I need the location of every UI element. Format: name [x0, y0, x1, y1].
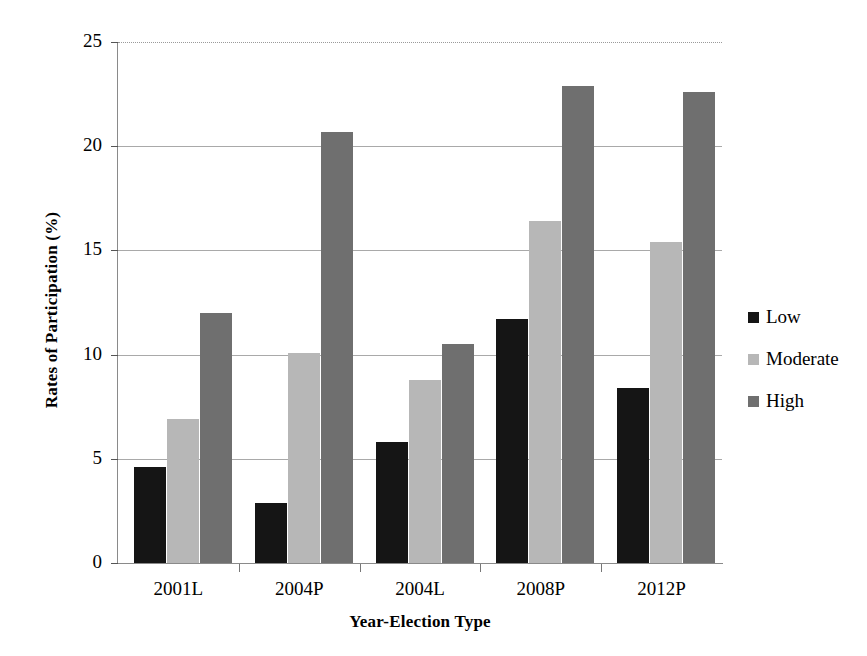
legend-item-low[interactable]: Low: [748, 296, 860, 338]
y-tick-label: 25: [42, 30, 102, 52]
bar-2008p-moderate: [529, 221, 561, 563]
bar-group-2004l: [360, 42, 481, 563]
legend-swatch-icon: [748, 396, 759, 407]
legend-label: Moderate: [766, 348, 839, 370]
y-tick-mark: [111, 563, 118, 564]
bar-2001l-moderate: [167, 419, 199, 563]
y-tick-mark: [111, 250, 118, 251]
bar-2004p-moderate: [288, 353, 320, 563]
legend-item-moderate[interactable]: Moderate: [748, 338, 860, 380]
y-tick-label: 5: [42, 447, 102, 469]
bar-2012p-low: [617, 388, 649, 563]
y-tick-label: 10: [42, 343, 102, 365]
y-tick-mark: [111, 459, 118, 460]
bar-2001l-low: [134, 467, 166, 563]
y-tick-label: 0: [42, 551, 102, 573]
y-tick-label: 15: [42, 238, 102, 260]
legend-swatch-icon: [748, 312, 759, 323]
bar-2001l-high: [200, 313, 232, 563]
x-tick-label-2012p: 2012P: [602, 578, 722, 600]
legend-label: High: [766, 390, 804, 412]
legend-swatch-icon: [748, 354, 759, 365]
bar-2004p-high: [321, 132, 353, 563]
bar-2008p-low: [496, 319, 528, 563]
legend-item-high[interactable]: High: [748, 380, 860, 422]
legend-label: Low: [766, 306, 801, 328]
x-tick-label-2001l: 2001L: [118, 578, 238, 600]
x-tick-mark: [239, 564, 240, 572]
x-tick-label-2004l: 2004L: [360, 578, 480, 600]
y-tick-mark: [111, 146, 118, 147]
bar-chart-figure: Rates of Participation (%) 0510152025 20…: [0, 0, 867, 656]
bar-2012p-high: [683, 92, 715, 563]
x-tick-mark: [601, 564, 602, 572]
bar-2012p-moderate: [650, 242, 682, 563]
x-axis-title: Year-Election Type: [118, 612, 722, 632]
bar-2004p-low: [255, 503, 287, 563]
bar-2004l-moderate: [409, 380, 441, 563]
plot-area: [118, 42, 722, 563]
bar-group-2008p: [480, 42, 601, 563]
x-tick-mark: [360, 564, 361, 572]
bar-2004l-high: [442, 344, 474, 563]
gridline: [118, 563, 722, 564]
chart-legend: LowModerateHigh: [748, 296, 860, 422]
y-tick-label: 20: [42, 134, 102, 156]
y-tick-mark: [111, 42, 118, 43]
y-tick-mark: [111, 355, 118, 356]
y-axis-tick-labels: 0510152025: [38, 42, 102, 563]
bar-group-2001l: [118, 42, 239, 563]
bar-2008p-high: [562, 86, 594, 563]
x-tick-mark: [480, 564, 481, 572]
bar-group-2012p: [601, 42, 722, 563]
bar-group-2004p: [239, 42, 360, 563]
x-tick-label-2008p: 2008P: [481, 578, 601, 600]
bar-2004l-low: [376, 442, 408, 563]
x-tick-label-2004p: 2004P: [239, 578, 359, 600]
